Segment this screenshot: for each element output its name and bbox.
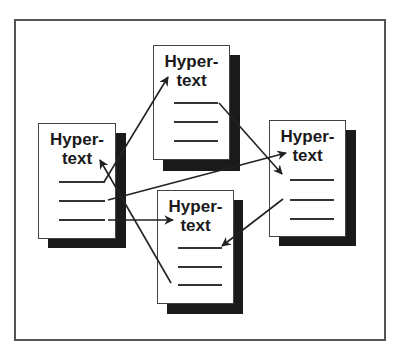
doc-top: Hyper- text	[153, 45, 230, 160]
doc-right-text-line	[290, 218, 334, 220]
doc-right-title: Hyper- text	[270, 127, 345, 165]
doc-right-title-line2: text	[270, 146, 345, 165]
doc-right-text-line	[290, 199, 334, 201]
doc-left-title-line2: text	[39, 149, 115, 168]
doc-bottom-title-line2: text	[158, 216, 233, 235]
doc-left-text-line	[59, 219, 105, 221]
doc-left-text-line	[59, 181, 105, 183]
doc-right-text-line	[290, 179, 334, 181]
doc-bottom-title: Hyper- text	[158, 197, 233, 235]
doc-left-title: Hyper- text	[39, 130, 115, 168]
doc-top-text-line	[174, 102, 218, 104]
doc-bottom-title-line1: Hyper-	[158, 197, 233, 216]
doc-bottom-text-line	[178, 284, 222, 286]
doc-top-title-line1: Hyper-	[154, 52, 229, 71]
doc-top-title-line2: text	[154, 71, 229, 90]
doc-left-text-line	[59, 200, 105, 202]
doc-left-title-line1: Hyper-	[39, 130, 115, 149]
doc-bottom-text-line	[178, 266, 222, 268]
doc-top-text-line	[174, 140, 218, 142]
doc-left: Hyper- text	[38, 123, 116, 239]
doc-top-text-line	[174, 121, 218, 123]
doc-top-title: Hyper- text	[154, 52, 229, 90]
diagram-canvas: Hyper- text Hyper- text Hyper- text Hype…	[0, 0, 394, 353]
doc-right: Hyper- text	[269, 120, 346, 237]
doc-bottom: Hyper- text	[157, 190, 234, 304]
doc-right-title-line1: Hyper-	[270, 127, 345, 146]
doc-bottom-text-line	[178, 247, 222, 249]
